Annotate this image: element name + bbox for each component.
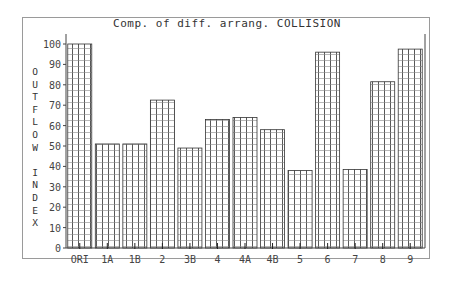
y-tick-label: 100: [43, 39, 61, 50]
y-ticks-group: 0102030405060708090100: [43, 39, 66, 254]
bar-2: [150, 100, 174, 248]
y-tick-label: 10: [49, 223, 61, 234]
x-tick-label: 3B: [184, 254, 196, 265]
x-tick-label: 6: [325, 254, 331, 265]
y-tick-label: 20: [49, 202, 61, 213]
bar-chart: 0102030405060708090100 ORI1A1B23B44A4B56…: [0, 0, 454, 283]
x-tick-label: 7: [352, 254, 358, 265]
bar-ORI: [68, 44, 92, 248]
bar-9: [398, 49, 422, 248]
bar-4: [205, 119, 229, 248]
y-tick-label: 50: [49, 141, 61, 152]
bar-1A: [95, 144, 119, 248]
y-tick-label: 80: [49, 80, 61, 91]
y-tick-label: 70: [49, 100, 61, 111]
x-tick-label: 2: [159, 254, 165, 265]
x-tick-label: 4: [214, 254, 220, 265]
bar-5: [288, 170, 312, 248]
x-tick-label: 4A: [239, 254, 251, 265]
bar-8: [371, 82, 395, 248]
bar-6: [316, 52, 340, 248]
x-tick-label: 1B: [129, 254, 141, 265]
y-tick-label: 0: [55, 243, 61, 254]
x-tick-label: 1A: [101, 254, 113, 265]
y-tick-label: 60: [49, 121, 61, 132]
y-tick-label: 90: [49, 59, 61, 70]
bar-7: [343, 169, 367, 248]
bar-4A: [233, 117, 257, 248]
x-tick-label: 9: [407, 254, 413, 265]
x-tick-label: 8: [380, 254, 386, 265]
x-tick-label: 4B: [267, 254, 279, 265]
bar-1B: [123, 144, 147, 248]
bar-3B: [178, 148, 202, 248]
x-tick-label: ORI: [71, 254, 89, 265]
y-tick-label: 40: [49, 161, 61, 172]
x-tick-label: 5: [297, 254, 303, 265]
bar-4B: [261, 130, 285, 248]
y-tick-label: 30: [49, 182, 61, 193]
bars-group: [68, 44, 422, 248]
